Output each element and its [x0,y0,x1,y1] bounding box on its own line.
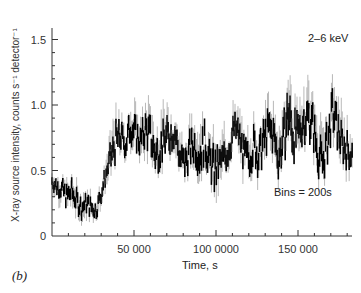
x-tick-label: 50 000 [117,243,151,255]
x-tick-label: 150 000 [278,243,318,255]
y-tick-label: 0.5 [31,165,46,177]
y-axis-label: X-ray source intensity, counts s⁻¹ detec… [10,28,21,222]
data-series [52,74,352,226]
y-tick-label: 0 [40,230,46,242]
y-tick-label: 1.0 [31,99,46,111]
x-tick-label: 100 0000 [193,243,239,255]
x-axis-label: Time, s [182,259,218,271]
energy-band-annotation: 2–6 keV [308,32,349,44]
bin-size-annotation: Bins = 200s [274,186,332,198]
panel-label: (b) [12,268,27,284]
light-curve-chart: 50 000100 0000150 00000.51.01.5 2–6 keV … [0,0,361,293]
y-tick-label: 1.5 [31,34,46,46]
